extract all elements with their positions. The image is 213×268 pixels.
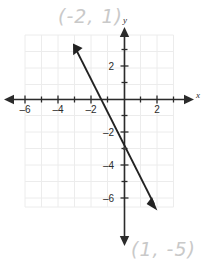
x-tick-label: –2 [85,104,97,115]
y-tick-label: –2 [103,127,115,138]
y-axis-down-arrow-icon [120,236,129,246]
x-tick-label: –6 [19,104,31,115]
y-tick-label: –6 [103,193,115,204]
x-tick-label: 2 [154,104,160,115]
y-axis [120,27,129,246]
graph-figure: –6 –4 –2 2 2 –2 –4 –6 x y (-2, 1) (1, -5… [0,0,213,268]
y-intercept-point [123,147,126,150]
x-tick-labels: –6 –4 –2 2 [19,104,160,115]
point-label-top: (-2, 1) [58,5,123,27]
y-axis-up-arrow-icon [120,27,129,37]
x-axis-left-arrow-icon [4,95,14,104]
y-tick-label: 2 [108,61,114,72]
y-tick-label: –4 [103,160,115,171]
plotted-line [73,44,157,211]
coordinate-plane-svg: –6 –4 –2 2 2 –2 –4 –6 x y (-2, 1) (1, -5… [0,0,213,268]
x-axis-label: x [195,90,200,100]
x-axis-right-arrow-icon [184,95,194,104]
x-tick-label: –4 [52,104,64,115]
point-label-bottom: (1, -5) [131,238,196,260]
grid-lines [25,35,174,207]
line-lower-arrow-icon [147,197,158,211]
y-tick-labels: 2 –2 –4 –6 [103,61,115,204]
